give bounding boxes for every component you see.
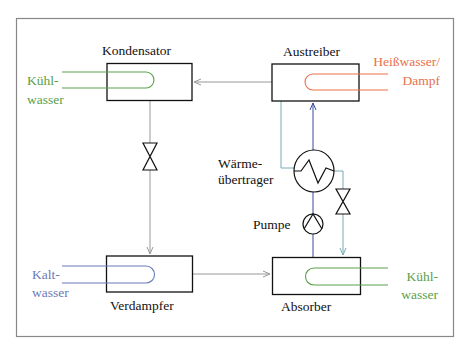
austreiber-label: Austreiber xyxy=(283,43,340,60)
expansion-valve-icon xyxy=(143,143,157,170)
heat-exchanger-label-2: übertrager xyxy=(218,171,273,188)
absorber-box xyxy=(273,258,361,295)
cold-water-label-2: wasser xyxy=(32,284,69,301)
kondensator-box xyxy=(107,64,192,101)
cooling-water-top-label-1: Kühl- xyxy=(27,72,59,89)
cooling-water-coil-kondensator xyxy=(62,72,154,88)
hot-water-label-1: Heißwasser/ xyxy=(373,53,440,70)
cold-water-coil-verdampfer xyxy=(62,266,155,283)
hot-water-coil-austreiber xyxy=(305,74,388,90)
heat-exchanger-label-1: Wärme- xyxy=(218,155,262,172)
poor-solution-hx-to-valve xyxy=(334,171,343,189)
austreiber-box xyxy=(272,64,359,101)
solution-valve-icon xyxy=(336,189,350,214)
poor-solution-austreiber-to-hx xyxy=(281,101,294,168)
heat-exchanger-icon xyxy=(294,150,334,192)
cooling-water-bottom-label-1: Kühl- xyxy=(407,268,439,285)
verdampfer-label: Verdampfer xyxy=(110,297,174,314)
cold-water-label-1: Kalt- xyxy=(32,266,60,283)
verdampfer-box xyxy=(107,256,193,292)
pump-label: Pumpe xyxy=(253,216,291,233)
hot-water-label-2: Dampf xyxy=(403,72,441,89)
absorber-label: Absorber xyxy=(281,298,331,315)
cooling-water-bottom-label-2: wasser xyxy=(401,286,438,303)
cooling-water-coil-absorber xyxy=(306,268,389,285)
kondensator-label: Kondensator xyxy=(102,42,171,59)
cooling-water-top-label-2: wasser xyxy=(27,91,64,108)
pump-icon xyxy=(303,214,323,234)
